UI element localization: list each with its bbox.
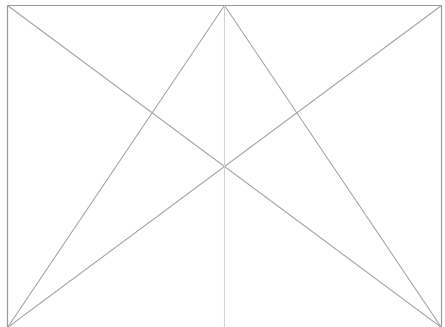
- diagram-svg: [0, 0, 445, 327]
- wireframe-diagram: [0, 0, 445, 327]
- line-apex-bl: [8, 6, 225, 327]
- diagram-lines: [8, 6, 442, 327]
- line-apex-br: [225, 6, 442, 327]
